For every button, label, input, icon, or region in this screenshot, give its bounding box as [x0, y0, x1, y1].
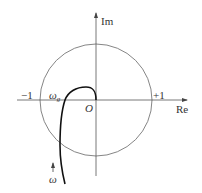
real-axis-label: Re	[176, 103, 188, 115]
origin-label: O	[85, 102, 93, 114]
nyquist-diagram: Im Re O −1 +1 ωg ω	[0, 0, 202, 193]
minus-one-label: −1	[21, 89, 33, 101]
imag-axis-label: Im	[101, 15, 114, 27]
omega-direction-label: ω	[49, 173, 57, 185]
subscript-g: g	[57, 95, 61, 103]
crossover-frequency-label: ωg	[49, 89, 61, 103]
plus-one-label: +1	[153, 89, 165, 101]
